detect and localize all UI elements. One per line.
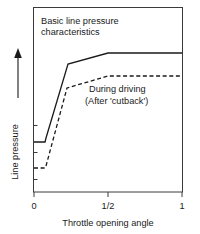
up-arrow-icon [14,48,22,58]
chart-title-line1: Basic line pressure [41,16,119,26]
x-tick-label-0: 0 [31,201,36,211]
x-axis-label: Throttle opening angle [62,218,153,228]
during-driving-annotation-line2: (After 'cutback') [85,96,148,106]
chart-title-line2: characteristics [41,27,100,37]
chart-canvas: Basic line pressure characteristics Duri… [0,0,200,234]
x-tick-label-1: 1 [179,201,184,211]
x-tick-label-half: 1/2 [102,201,115,211]
y-axis-label: Line pressure [10,124,20,180]
line-pressure-chart: Basic line pressure characteristics Duri… [0,0,200,234]
during-driving-annotation-line1: During driving [89,84,146,94]
